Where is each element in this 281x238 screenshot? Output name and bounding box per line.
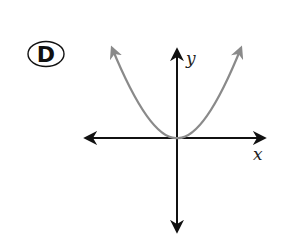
- option-label: D: [28, 42, 64, 68]
- graph-figure: D y x: [0, 0, 281, 238]
- y-axis-label: y: [185, 48, 196, 68]
- x-axis-label: x: [253, 144, 263, 164]
- option-letter: D: [37, 42, 55, 67]
